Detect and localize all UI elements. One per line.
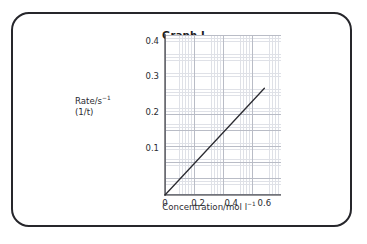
y-axis-title-line1: Rate/s−1 — [75, 96, 137, 107]
y-tick-label: 0.2 — [135, 107, 159, 117]
figure-frame: Graph I 0.1 0.2 0.3 0.4 0 0.2 0.4 0.6 Ra… — [11, 12, 352, 227]
y-axis-title: Rate/s−1 (1/t) — [75, 96, 137, 118]
y-axis-title-line2: (1/t) — [75, 107, 137, 118]
y-axis-title-exponent: −1 — [102, 95, 111, 101]
y-tick-label: 0.1 — [135, 143, 159, 153]
y-tick-label: 0.3 — [135, 71, 159, 81]
x-axis-title: Concentration/mol l−1 — [109, 202, 309, 212]
figure-page: Graph I 0.1 0.2 0.3 0.4 0 0.2 0.4 0.6 Ra… — [0, 0, 367, 244]
y-tick-label: 0.4 — [135, 36, 159, 46]
axes-and-data-svg — [13, 14, 354, 229]
data-series-line — [165, 88, 264, 195]
x-axis-title-text: Concentration/mol l — [162, 202, 247, 212]
y-axis-title-text: Rate/s — [75, 96, 102, 106]
x-axis-title-exponent: −1 — [247, 201, 256, 207]
